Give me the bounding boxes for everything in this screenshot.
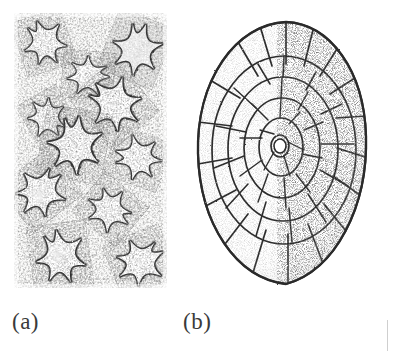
starfish-slab-drawing [14, 13, 167, 288]
panel-b-label: (b) [183, 310, 211, 333]
panel-b-echinoderm-test-illustration [190, 18, 378, 293]
central-plate [274, 139, 286, 153]
page-edge-rule [387, 320, 388, 351]
panel-a-starfish-slab-illustration [14, 13, 167, 288]
panel-a-label: (a) [12, 310, 39, 333]
echinoderm-test-drawing [190, 18, 378, 293]
figure-page: (a) (b) [0, 0, 396, 358]
plate-mosaic [190, 18, 378, 293]
test-shading [190, 18, 378, 293]
